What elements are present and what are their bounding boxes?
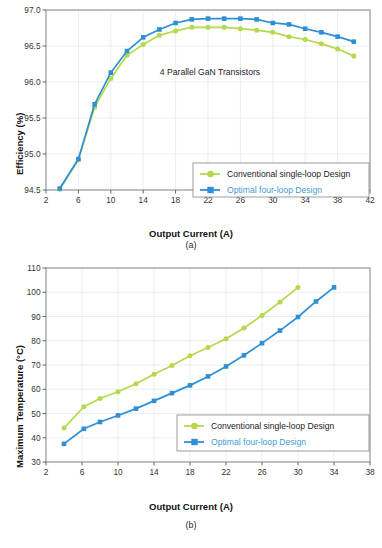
figure-b: Maximum Temperature (°C) 261014182226303… xyxy=(0,258,382,548)
data-point xyxy=(152,372,157,377)
data-point xyxy=(319,30,324,35)
y-tick-label: 96.5 xyxy=(24,41,41,51)
data-point xyxy=(116,389,121,394)
data-point xyxy=(335,34,340,39)
data-point xyxy=(222,25,227,30)
y-tick-label: 97.0 xyxy=(24,5,41,15)
x-tick-label: 18 xyxy=(185,467,195,477)
y-tick-label: 94.5 xyxy=(24,185,41,195)
data-point xyxy=(296,285,301,290)
legend-label: Conventional single-loop Design xyxy=(211,421,334,431)
chart-annotation: 4 Parallel GaN Transistors xyxy=(160,67,260,77)
legend-label: Optimal four-loop Design xyxy=(227,185,322,195)
x-axis-title-a: Output Current (A) xyxy=(0,228,382,239)
x-tick-label: 6 xyxy=(80,467,85,477)
data-point xyxy=(109,70,114,75)
data-point xyxy=(170,391,175,396)
legend-marker-circle xyxy=(207,171,214,178)
data-point xyxy=(157,27,162,32)
y-tick-label: 100 xyxy=(27,287,41,297)
y-tick-label: 70 xyxy=(31,360,41,370)
y-tick-label: 95.0 xyxy=(24,149,41,159)
x-tick-label: 18 xyxy=(171,195,181,205)
data-point xyxy=(76,157,81,162)
y-tick-label: 60 xyxy=(31,384,41,394)
data-point xyxy=(206,25,211,30)
data-point xyxy=(81,404,86,409)
figure-page: Efficiency (%) 2610141822263034384294.59… xyxy=(0,0,382,548)
data-point xyxy=(157,33,162,38)
data-point xyxy=(173,28,178,33)
x-tick-label: 26 xyxy=(257,467,267,477)
data-point xyxy=(170,363,175,368)
data-point xyxy=(134,381,139,386)
data-point xyxy=(141,42,146,47)
data-point xyxy=(238,26,243,31)
data-point xyxy=(260,313,265,318)
data-point xyxy=(254,28,259,33)
data-point xyxy=(62,442,67,447)
data-point xyxy=(206,345,211,350)
legend: Conventional single-loop DesignOptimal f… xyxy=(177,415,369,451)
data-point xyxy=(314,299,319,304)
y-tick-label: 40 xyxy=(31,433,41,443)
x-tick-label: 6 xyxy=(76,195,81,205)
plot-area-a: 2610141822263034384294.595.095.596.096.5… xyxy=(0,0,382,212)
data-point xyxy=(98,396,103,401)
data-point xyxy=(270,30,275,35)
data-point xyxy=(125,49,130,54)
data-point xyxy=(278,299,283,304)
y-tick-label: 90 xyxy=(31,312,41,322)
data-point xyxy=(303,26,308,31)
data-point xyxy=(254,17,259,22)
x-tick-label: 34 xyxy=(329,467,339,477)
y-tick-label: 50 xyxy=(31,409,41,419)
legend-marker-square xyxy=(207,187,213,193)
x-tick-label: 30 xyxy=(293,467,303,477)
data-point xyxy=(242,353,247,358)
y-tick-label: 95.5 xyxy=(24,113,41,123)
data-point xyxy=(82,426,87,431)
data-point xyxy=(188,383,193,388)
data-point xyxy=(238,16,243,21)
x-tick-label: 10 xyxy=(106,195,116,205)
y-tick-label: 30 xyxy=(31,457,41,467)
data-point xyxy=(287,22,292,27)
data-point xyxy=(222,16,227,21)
x-axis-title-b: Output Current (A) xyxy=(0,501,382,512)
x-tick-label: 38 xyxy=(365,467,375,477)
data-point xyxy=(319,41,324,46)
legend-marker-square xyxy=(191,439,197,445)
data-point xyxy=(278,328,283,333)
data-point xyxy=(188,353,193,358)
data-point xyxy=(271,21,276,26)
data-point xyxy=(134,406,139,411)
data-point xyxy=(303,37,308,42)
legend-marker-circle xyxy=(191,423,198,430)
data-point xyxy=(206,16,211,21)
legend-label: Conventional single-loop Design xyxy=(227,169,350,179)
y-tick-label: 80 xyxy=(31,336,41,346)
data-point xyxy=(190,17,195,22)
data-point xyxy=(287,34,292,39)
data-point xyxy=(206,374,211,379)
caption-a: (a) xyxy=(0,240,382,250)
x-tick-label: 14 xyxy=(149,467,159,477)
x-tick-label: 2 xyxy=(44,467,49,477)
data-point xyxy=(224,364,229,369)
plot-area-b: 26101418222630343830405060708090100110Co… xyxy=(0,258,382,486)
data-point xyxy=(189,25,194,30)
data-point xyxy=(242,325,247,330)
legend: Conventional single-loop DesignOptimal f… xyxy=(193,163,369,197)
y-tick-label: 110 xyxy=(27,263,41,273)
x-tick-label: 14 xyxy=(139,195,149,205)
chart-svg-b: 26101418222630343830405060708090100110Co… xyxy=(0,258,382,486)
series-1 xyxy=(62,285,301,431)
data-point xyxy=(98,420,103,425)
data-point xyxy=(296,315,301,320)
data-point xyxy=(351,54,356,59)
data-point xyxy=(224,336,229,341)
data-point xyxy=(352,39,357,44)
data-point xyxy=(116,413,121,418)
legend-label: Optimal four-loop Design xyxy=(211,437,306,447)
